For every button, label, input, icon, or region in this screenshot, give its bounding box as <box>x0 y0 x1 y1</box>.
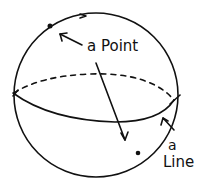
point-arrow-shaft <box>60 34 82 45</box>
line-label-word: Line <box>163 155 194 170</box>
point-dot <box>48 24 53 29</box>
equator-back-dashed <box>14 74 174 100</box>
point-label: a Point <box>87 39 138 54</box>
equator-front <box>13 93 174 122</box>
line-label-article: a <box>168 138 177 152</box>
line-dot <box>136 151 141 156</box>
top-tick <box>80 14 86 18</box>
